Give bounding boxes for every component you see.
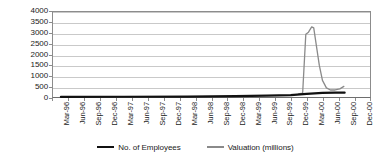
legend-line-icon-employees	[97, 146, 114, 149]
x-tick-mark	[227, 98, 228, 101]
series-line-employees	[61, 93, 345, 97]
y-axis: 05001000150020002500300035004000	[0, 0, 48, 110]
x-tick-mark	[100, 98, 101, 101]
y-tick-label: 500	[2, 83, 48, 91]
x-tick-mark	[339, 98, 340, 101]
series-layer	[53, 12, 370, 97]
x-tick-label: Dec-98	[239, 102, 247, 126]
x-tick-label: Jun-97	[143, 102, 151, 124]
y-tick-label: 3000	[2, 29, 48, 37]
x-tick-label: Sep-96	[95, 102, 103, 126]
x-tick-mark	[84, 98, 85, 101]
x-tick-label: Sep-97	[159, 102, 167, 126]
y-tick-label: 0	[2, 94, 48, 102]
y-tick-label: 3500	[2, 18, 48, 26]
y-tick-label: 4000	[2, 7, 48, 15]
series-line-valuation	[299, 27, 344, 94]
x-tick-label: Sep-00	[350, 102, 358, 126]
x-tick-mark	[259, 98, 260, 101]
x-tick-label: Sep-98	[223, 102, 231, 126]
x-tick-mark	[307, 98, 308, 101]
x-tick-label: Dec-00	[366, 102, 374, 126]
legend-item-employees: No. of Employees	[97, 143, 180, 152]
legend-label-valuation: Valuation (millions)	[228, 143, 294, 152]
x-tick-label: Dec-97	[175, 102, 183, 126]
plot-area	[52, 11, 371, 98]
x-tick-mark	[116, 98, 117, 101]
x-tick-mark	[355, 98, 356, 101]
x-tick-mark	[291, 98, 292, 101]
chart-legend: No. of Employees Valuation (millions)	[0, 140, 391, 154]
x-tick-label: Dec-99	[302, 102, 310, 126]
x-tick-mark	[243, 98, 244, 101]
y-tick-label: 1500	[2, 61, 48, 69]
x-tick-label: Sep-99	[286, 102, 294, 126]
y-tick-label: 2500	[2, 40, 48, 48]
x-tick-label: Mar-96	[63, 102, 71, 125]
legend-item-valuation: Valuation (millions)	[207, 143, 294, 152]
x-tick-label: Mar-98	[191, 102, 199, 125]
x-axis: Mar-96Jun-96Sep-96Dec-96Mar-97Jun-97Sep-…	[52, 102, 371, 136]
y-tick-label: 2000	[2, 51, 48, 59]
x-tick-mark	[212, 98, 213, 101]
chart-container: 05001000150020002500300035004000 Mar-96J…	[0, 0, 391, 161]
x-tick-mark	[275, 98, 276, 101]
x-tick-mark	[132, 98, 133, 101]
x-tick-label: Jun-98	[207, 102, 215, 124]
x-tick-label: Jun-96	[79, 102, 87, 124]
x-tick-mark	[370, 98, 371, 101]
x-tick-mark	[148, 98, 149, 101]
x-tick-mark	[52, 98, 53, 101]
x-tick-mark	[68, 98, 69, 101]
x-tick-label: Mar-00	[318, 102, 326, 125]
x-tick-label: Jun-99	[271, 102, 279, 124]
legend-line-icon-valuation	[207, 146, 224, 148]
y-tick-label: 1000	[2, 72, 48, 80]
x-tick-mark	[180, 98, 181, 101]
x-tick-label: Dec-96	[111, 102, 119, 126]
x-tick-label: Mar-99	[255, 102, 263, 125]
x-tick-mark	[196, 98, 197, 101]
x-tick-mark	[164, 98, 165, 101]
x-tick-label: Jun-00	[334, 102, 342, 124]
legend-label-employees: No. of Employees	[118, 143, 180, 152]
x-tick-mark	[323, 98, 324, 101]
x-tick-label: Mar-97	[127, 102, 135, 125]
